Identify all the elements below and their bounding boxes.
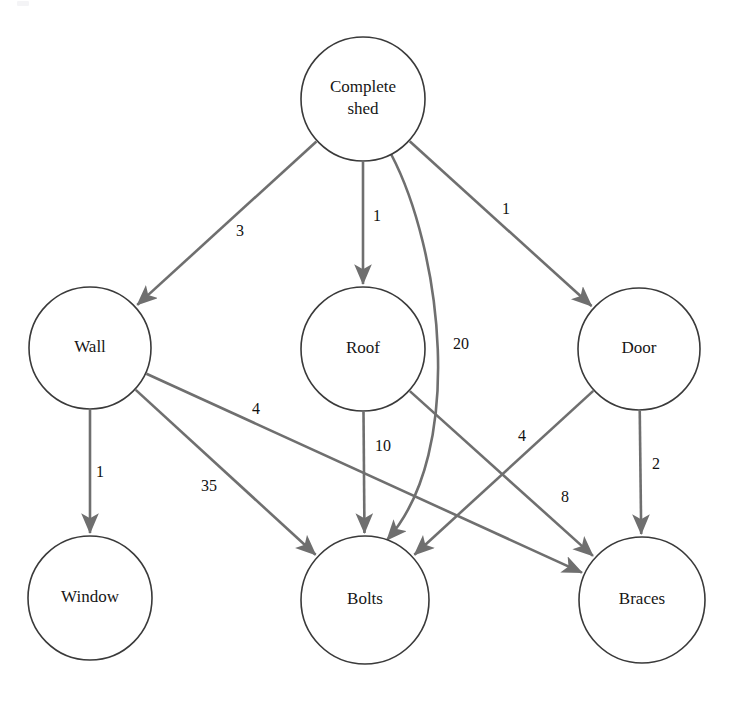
node-label-wall: Wall [74, 337, 106, 356]
node-label-window: Window [61, 587, 120, 606]
diagram-canvas: CompleteshedWallRoofDoorWindowBoltsBrace… [0, 0, 730, 701]
edge-shed-door [410, 141, 592, 306]
edge-quantity-door-braces: 2 [652, 455, 660, 472]
edge-quantity-shed-bolts: 20 [453, 335, 469, 352]
node-wall[interactable]: Wall [29, 287, 151, 409]
edge-quantity-roof-braces: 8 [561, 488, 569, 505]
edge-quantity-door-bolts: 4 [518, 427, 526, 444]
node-bolts[interactable]: Bolts [301, 536, 429, 664]
edge-door-braces [640, 411, 641, 534]
node-label-roof: Roof [346, 338, 380, 357]
node-window[interactable]: Window [28, 536, 152, 660]
node-label-bolts: Bolts [347, 589, 383, 608]
edge-door-bolts [414, 391, 593, 555]
edge-quantity-wall-window: 1 [96, 463, 104, 480]
node-roof[interactable]: Roof [301, 287, 425, 411]
edge-quantity-wall-braces: 4 [252, 400, 260, 417]
edge-quantity-wall-bolts: 35 [201, 477, 217, 494]
edge-roof-bolts [364, 412, 365, 533]
edge-quantity-shed-roof: 1 [373, 207, 381, 224]
edge-quantity-shed-door: 1 [502, 200, 510, 217]
edge-quantity-roof-bolts: 10 [375, 437, 391, 454]
edge-quantity-shed-wall: 3 [236, 222, 244, 239]
edge-wall-bolts [136, 390, 316, 555]
edge-shed-wall [137, 141, 316, 304]
node-label-braces: Braces [619, 589, 665, 608]
node-door[interactable]: Door [578, 288, 700, 410]
node-layer: CompleteshedWallRoofDoorWindowBoltsBrace… [28, 37, 705, 664]
node-complete-shed[interactable]: Completeshed [301, 37, 425, 161]
node-label-door: Door [622, 338, 657, 357]
node-braces[interactable]: Braces [579, 537, 705, 663]
graph-svg: CompleteshedWallRoofDoorWindowBoltsBrace… [0, 0, 730, 701]
